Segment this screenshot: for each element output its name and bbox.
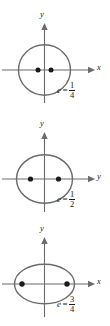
ellipse-panel-3: x y e = 3 4	[0, 218, 110, 326]
ellipse-panel-2: y y e = 1 2	[0, 109, 110, 217]
y-axis-arrowhead-2	[41, 132, 47, 139]
ellipse-panel-1: x y e = 1 4	[0, 0, 110, 108]
y-axis-arrowhead-3	[41, 237, 47, 244]
ellipse-diagram-1	[0, 0, 110, 108]
focus-left-2	[28, 176, 33, 181]
focus-right-3	[64, 281, 69, 286]
x-axis-arrowhead-2	[88, 176, 95, 182]
ellipse-eccentricity-figure: x y e = 1 4 y y e =	[0, 0, 110, 326]
focus-left-3	[19, 281, 24, 286]
x-axis-arrowhead-1	[88, 67, 95, 73]
focus-right-1	[49, 68, 54, 73]
focus-right-2	[56, 176, 61, 181]
y-axis-arrowhead-1	[41, 23, 47, 30]
ellipse-diagram-3	[0, 218, 110, 326]
x-axis-arrowhead-3	[88, 281, 95, 287]
ellipse-diagram-2	[0, 109, 110, 217]
focus-left-1	[36, 68, 41, 73]
